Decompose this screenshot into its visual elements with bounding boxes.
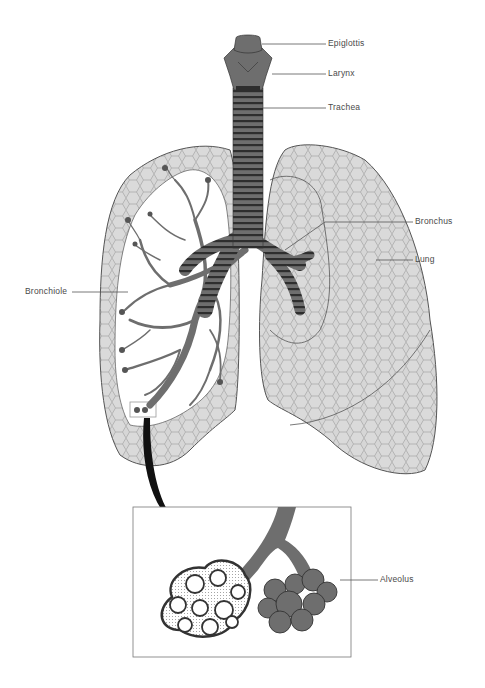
epiglottis [234, 35, 262, 53]
label-alveolus: Alveolus [380, 574, 414, 584]
label-lung: Lung [415, 254, 435, 264]
alveolus-inset [133, 507, 351, 657]
respiratory-diagram [0, 0, 485, 688]
label-trachea: Trachea [328, 102, 360, 112]
right-lung [260, 145, 437, 474]
label-bronchiole: Bronchiole [25, 286, 67, 296]
label-larynx: Larynx [328, 68, 355, 78]
label-bronchus: Bronchus [415, 216, 453, 226]
larynx [224, 48, 272, 92]
label-epiglottis: Epiglottis [328, 38, 365, 48]
trachea [233, 88, 263, 248]
